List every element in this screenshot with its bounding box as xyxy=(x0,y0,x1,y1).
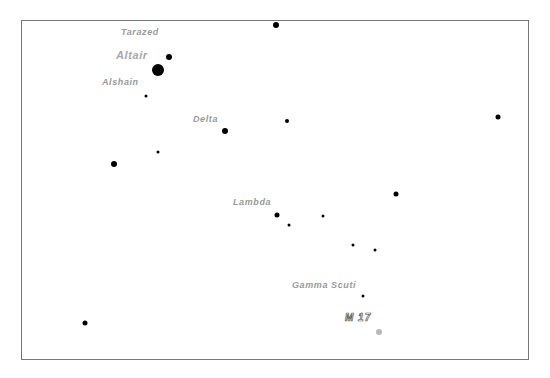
star-e2-icon xyxy=(496,115,501,120)
star-sw-icon xyxy=(83,321,88,326)
star-alshain-icon xyxy=(145,95,148,98)
m17-marker-icon xyxy=(376,329,382,335)
star-gamma-scuti-icon xyxy=(362,295,365,298)
label-delta: Delta xyxy=(193,114,218,124)
star-l2-icon xyxy=(322,215,325,218)
star-l1-icon xyxy=(288,224,291,227)
label-lambda: Lambda xyxy=(233,197,271,207)
star-e3-icon xyxy=(394,192,399,197)
star-l3-icon xyxy=(352,244,355,247)
star-l4-icon xyxy=(374,249,377,252)
star-tarazed-icon xyxy=(166,54,172,60)
star-w1-icon xyxy=(111,161,117,167)
label-gamma-scuti: Gamma Scuti xyxy=(292,280,356,290)
label-altair: Altair xyxy=(116,49,148,61)
star-w2-icon xyxy=(157,151,160,154)
label-tarazed: Tarazed xyxy=(121,27,159,37)
star-top-icon xyxy=(273,22,279,28)
label-alshain: Alshain xyxy=(102,77,139,87)
star-lambda-icon xyxy=(275,213,280,218)
star-e1-icon xyxy=(285,119,289,123)
star-delta-icon xyxy=(222,128,228,134)
label-m17: M 17 xyxy=(345,312,371,323)
chart-frame xyxy=(21,20,529,360)
star-altair-icon xyxy=(152,64,164,76)
